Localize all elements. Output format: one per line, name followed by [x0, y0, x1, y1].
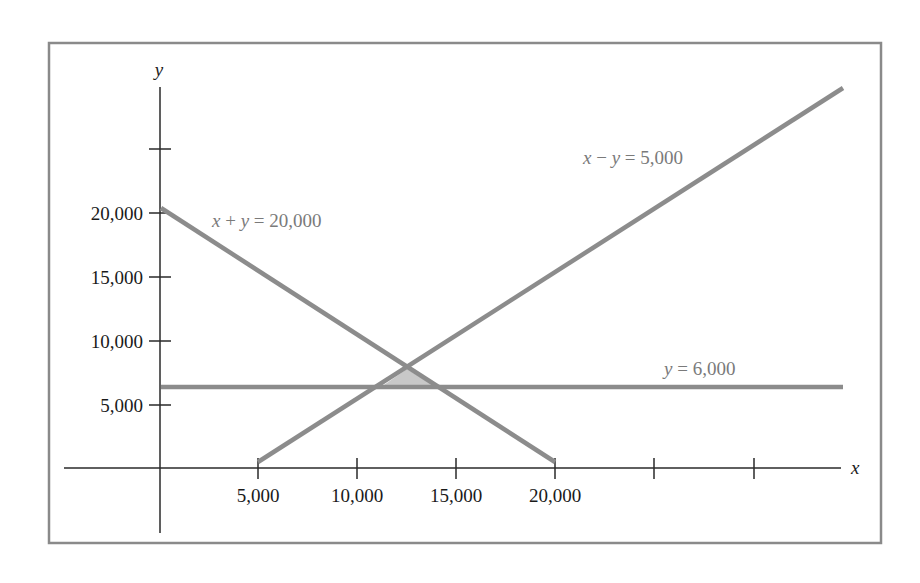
label-y-6000: y = 6,000 [662, 358, 735, 379]
x-tick-label-15000: 15,000 [430, 485, 482, 506]
y-tick-label-15000: 15,000 [91, 267, 143, 288]
y-axis-name: y [153, 59, 164, 80]
x-tick-label-10000: 10,000 [331, 485, 383, 506]
linear-programming-chart: y x 20,000 15,000 10,000 5,000 5,000 10,… [0, 0, 920, 583]
x-tick-label-5000: 5,000 [237, 485, 280, 506]
eq3-rest: = 6,000 [672, 358, 735, 379]
eq1-op: + [220, 210, 240, 231]
line-x-minus-y-5000 [258, 88, 843, 462]
eq2-op: − [591, 147, 611, 168]
eq3-var-y: y [662, 358, 673, 379]
eq1-rest: = 20,000 [249, 210, 321, 231]
y-tick-label-5000: 5,000 [100, 395, 143, 416]
label-x-minus-y-5000: x − y = 5,000 [582, 147, 683, 168]
x-axis-name: x [850, 457, 860, 478]
y-tick-label-10000: 10,000 [91, 331, 143, 352]
line-x-plus-y-20000 [161, 208, 555, 462]
x-tick-label-20000: 20,000 [529, 485, 581, 506]
eq2-var-y: y [610, 147, 621, 168]
label-x-plus-y-20000: x + y = 20,000 [211, 210, 322, 231]
y-tick-label-20000: 20,000 [91, 203, 143, 224]
eq1-var-y: y [239, 210, 250, 231]
eq2-rest: = 5,000 [620, 147, 683, 168]
